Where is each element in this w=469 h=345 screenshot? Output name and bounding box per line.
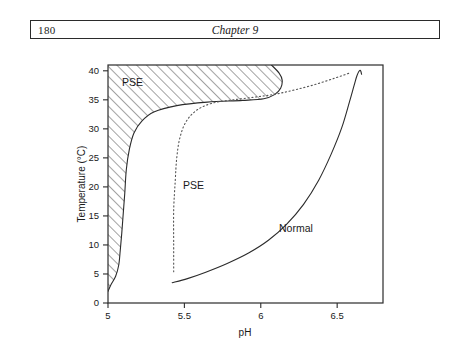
x-tick-label: 6 xyxy=(258,310,263,321)
y-tick-label: 5 xyxy=(94,268,99,279)
y-tick-label: 0 xyxy=(94,297,99,308)
running-header: 180 Chapter 9 xyxy=(30,20,440,39)
y-tick-label: 35 xyxy=(88,94,99,105)
y-tick-label: 40 xyxy=(88,65,99,76)
chart-series-group xyxy=(108,65,362,291)
pse-phase-diagram: 0510152025303540 55.566.5 PSEPSENormal p… xyxy=(0,48,469,345)
region-label-normal: Normal xyxy=(279,222,313,234)
chapter-title: Chapter 9 xyxy=(31,24,439,36)
y-tick-label: 15 xyxy=(88,210,99,221)
x-axis-ticks: 55.566.5 xyxy=(105,303,343,321)
y-axis-ticks: 0510152025303540 xyxy=(88,65,108,308)
y-axis-title: Temperature (°C) xyxy=(76,146,87,223)
chart-canvas: 0510152025303540 55.566.5 PSEPSENormal p… xyxy=(0,48,469,345)
y-tick-label: 20 xyxy=(88,181,99,192)
x-tick-label: 6.5 xyxy=(331,310,344,321)
hatched-pse-region xyxy=(108,65,282,291)
y-tick-label: 10 xyxy=(88,239,99,250)
x-tick-label: 5 xyxy=(105,310,110,321)
x-tick-label: 5.5 xyxy=(178,310,191,321)
y-tick-label: 25 xyxy=(88,152,99,163)
region-label-pse: PSE xyxy=(183,179,204,191)
y-tick-label: 30 xyxy=(88,123,99,134)
region-label-pse: PSE xyxy=(122,76,143,88)
x-axis-title: pH xyxy=(239,327,252,338)
